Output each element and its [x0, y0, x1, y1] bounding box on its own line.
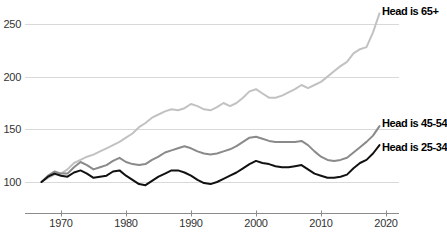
x-axis-tick-label: 1990: [179, 217, 202, 229]
x-axis-tick-label: 2010: [309, 217, 332, 229]
y-axis-tick-label: 200: [4, 71, 22, 83]
x-axis-tick-label: 1980: [114, 217, 137, 229]
y-axis-tick-label: 100: [4, 176, 22, 188]
y-axis-tick-label: 150: [4, 123, 22, 135]
series-end-label-head-is-25-34: Head is 25-34: [382, 141, 447, 153]
x-axis-tick-label: 2020: [374, 217, 397, 229]
series-end-label-head-is-65-: Head is 65+: [382, 5, 438, 17]
x-axis-tick-label: 2000: [244, 217, 267, 229]
y-axis-tick-label: 250: [4, 18, 22, 30]
series-end-label-head-is-45-54: Head is 45-54: [382, 117, 447, 129]
income-index-line-chart: 100150200250197019801990200020102020Head…: [0, 0, 447, 236]
line-chart-canvas: 100150200250197019801990200020102020Head…: [0, 0, 447, 236]
x-axis-tick-label: 1970: [49, 217, 72, 229]
series-line-head-is-25-34: [42, 145, 380, 185]
series-line-head-is-65-: [42, 13, 380, 182]
